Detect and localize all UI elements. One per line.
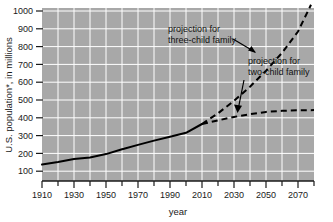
y-tick-label: 1000	[13, 6, 33, 16]
y-tick-label: 200	[18, 149, 33, 159]
y-tick-label: 500	[18, 95, 33, 105]
x-tick-label: 2030	[224, 190, 244, 200]
y-tick-label: 800	[18, 42, 33, 52]
x-tick-label: 1950	[96, 190, 116, 200]
y-tick-label: 400	[18, 113, 33, 123]
y-axis-ticks	[36, 11, 43, 171]
y-tick-label: 300	[18, 131, 33, 141]
x-tick-label: 1910	[32, 190, 52, 200]
y-axis-tick-labels: 1000 900 800 700 600 500 400 300 200 100	[13, 6, 33, 176]
x-axis-ticks	[42, 181, 314, 188]
x-tick-label: 2050	[256, 190, 276, 200]
annotation-two-child-line1: projection for	[248, 56, 300, 66]
x-tick-label: 2070	[288, 190, 308, 200]
chart-canvas: 1000 900 800 700 600 500 400 300 200 100	[0, 0, 333, 222]
y-axis-title: U.S. population*, in millions	[3, 37, 14, 153]
x-tick-label: 1990	[160, 190, 180, 200]
y-tick-label: 100	[18, 166, 33, 176]
y-tick-label: 600	[18, 77, 33, 87]
annotation-two-child-line2: two-child family	[248, 67, 310, 77]
x-axis-title: year	[169, 206, 187, 217]
x-axis-tick-labels: 1910 1930 1950 1970 1990 2010 2030 2050 …	[32, 190, 308, 200]
x-tick-label: 1930	[64, 190, 84, 200]
x-tick-label: 1970	[128, 190, 148, 200]
y-tick-label: 900	[18, 24, 33, 34]
x-tick-label: 2010	[192, 190, 212, 200]
annotation-three-child-line1: projection for	[168, 24, 220, 34]
y-tick-label: 700	[18, 60, 33, 70]
population-projection-chart: 1000 900 800 700 600 500 400 300 200 100	[0, 0, 333, 222]
annotation-three-child-line2: three-child family	[168, 35, 237, 45]
